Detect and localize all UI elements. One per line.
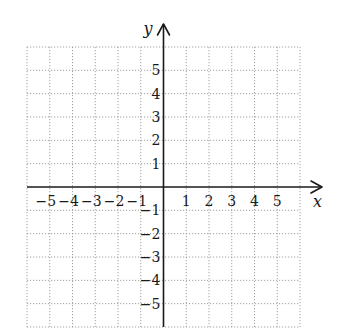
y-tick-label: −1 [140, 202, 161, 218]
y-tick-label: −2 [140, 226, 161, 242]
axes [27, 24, 322, 327]
x-tick-label: −3 [81, 193, 102, 209]
coordinate-plane: −5−4−3−2−112345 54321−1−2−3−4−5 x y [0, 0, 340, 330]
y-tick-label: 5 [152, 62, 161, 78]
x-tick-label: 1 [182, 193, 191, 209]
x-tick-label: −4 [58, 193, 79, 209]
x-tick-label: 4 [250, 193, 259, 209]
y-tick-label: 4 [152, 86, 161, 102]
y-tick-label: −4 [140, 272, 161, 288]
x-tick-label: 3 [227, 193, 236, 209]
x-tick-label: −5 [35, 193, 56, 209]
y-tick-label: 1 [152, 156, 161, 172]
y-tick-label: −5 [140, 296, 161, 312]
y-axis-label: y [143, 19, 154, 38]
x-tick-label: 5 [273, 193, 282, 209]
x-axis-label: x [313, 192, 322, 211]
y-tick-label: −3 [140, 249, 161, 265]
x-tick-label: −2 [104, 193, 125, 209]
y-tick-label: 3 [152, 109, 161, 125]
y-tick-label: 2 [152, 132, 161, 148]
x-tick-label: 2 [205, 193, 214, 209]
